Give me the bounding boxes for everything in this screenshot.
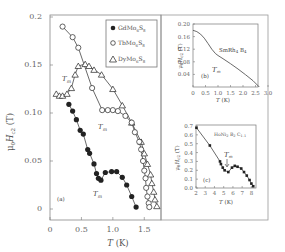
data-point-tbmo6s8 [144, 185, 149, 190]
data-point-tbmo6s8 [105, 108, 110, 113]
panel-a-ylabel: μ0Hc2 (T) [5, 113, 16, 151]
y-tick-label: 0.2 [29, 12, 42, 21]
data-point-tbmo6s8 [147, 204, 152, 209]
data-point-dymo6s8 [152, 197, 158, 202]
y-tick-label: 0.2 [184, 167, 193, 173]
data-point-honi2b2c11 [236, 165, 239, 168]
x-tick-label: 1.0 [106, 225, 119, 234]
data-point-tbmo6s8 [90, 85, 95, 90]
data-point-gdmo6s8 [103, 170, 108, 175]
x-tick-label: 1.5 [138, 225, 151, 234]
panel-b: 00.51.01.52.02.53.00.040.080.120.160.20 … [177, 21, 273, 103]
data-point-gdmo6s8 [129, 194, 134, 199]
panel-c: 23456780.00.10.20.30.40.50.60.7 μ0Hc2 (T… [174, 123, 256, 205]
x-tick-label: 4 [213, 190, 217, 196]
y-tick-label: 0.20 [178, 21, 191, 27]
data-point-honi2b2c11 [252, 185, 255, 188]
data-point-gdmo6s8 [74, 117, 79, 122]
data-point-honi2b2c11 [248, 179, 251, 182]
x-tick-label: 2.5 [251, 90, 260, 96]
data-point-tbmo6s8 [115, 108, 120, 113]
data-point-tbmo6s8 [137, 139, 142, 144]
x-tick-label: 0 [191, 90, 195, 96]
data-point-gdmo6s8 [98, 178, 103, 183]
x-tick-label: 3 [203, 190, 207, 196]
panel-a-label: (a) [57, 196, 65, 202]
data-point-honi2b2c11 [227, 171, 230, 174]
data-point-dymo6s8 [147, 172, 153, 177]
panel-a: 00.51.01.500.050.100.150.2 μ0Hc2 (T) T (… [5, 12, 161, 248]
data-point-dymo6s8 [110, 86, 116, 91]
data-point-dymo6s8 [75, 63, 81, 68]
panel-b-label: (b) [201, 73, 209, 79]
data-point-tbmo6s8 [143, 176, 148, 181]
data-point-tbmo6s8 [76, 45, 81, 50]
data-point-dymo6s8 [154, 203, 160, 208]
data-point-honi2b2c11 [231, 166, 234, 169]
panel-c-tm-annotation: Tm [224, 151, 233, 159]
data-point-tbmo6s8 [70, 35, 75, 40]
data-point-tbmo6s8 [132, 130, 137, 135]
panel-c-ylabel: μ0Hc2 (T) [174, 145, 181, 170]
panel-a-tm-annotation-tb: Tm [98, 123, 107, 132]
y-tick-label: 0.3 [184, 158, 193, 164]
y-tick-label: 0.6 [184, 132, 193, 138]
x-tick-label: 2 [194, 190, 198, 196]
data-point-honi2b2c11 [195, 126, 198, 129]
data-point-honi2b2c11 [240, 167, 243, 170]
panel-c-tm-arrow [225, 159, 229, 167]
x-tick-label: 0 [47, 225, 52, 234]
panel-a-tm-annotation-gd: Tm [93, 190, 102, 199]
y-tick-label: 0.04 [178, 71, 191, 77]
panel-c-xlabel: T (K) [219, 199, 233, 205]
panel-a-xlabel: T (K) [107, 238, 128, 248]
data-point-dymo6s8 [151, 189, 157, 194]
x-tick-label: 1.5 [226, 90, 235, 96]
data-point-gdmo6s8 [120, 175, 125, 180]
panel-a-tm-annotation-dy: Tm [62, 75, 71, 84]
y-tick-label: 0.1 [184, 176, 193, 182]
y-tick-label: 0.4 [184, 150, 193, 156]
x-tick-label: 3.0 [264, 90, 273, 96]
data-point-honi2b2c11 [223, 169, 226, 172]
data-point-gdmo6s8 [124, 182, 129, 187]
legend-marker-gdmo6s8 [111, 26, 116, 31]
data-point-dymo6s8 [64, 91, 70, 96]
panel-c-title: HoNi2 B2 C1.1 [214, 132, 246, 138]
data-point-honi2b2c11 [219, 160, 222, 163]
y-tick-label: 0 [37, 204, 42, 213]
x-tick-label: 7 [240, 190, 244, 196]
y-tick-label: 0.16 [178, 34, 191, 40]
data-point-honi2b2c11 [245, 174, 248, 177]
data-point-honi2b2c11 [243, 171, 246, 174]
panel-b-tm-annotation: Tm [212, 66, 221, 74]
x-tick-label: 1.0 [214, 90, 223, 96]
y-tick-label: 0.0 [184, 185, 193, 191]
panel-c-label: (c) [203, 177, 210, 183]
data-point-tbmo6s8 [100, 108, 105, 113]
data-point-dymo6s8 [98, 72, 104, 77]
x-tick-label: 0.5 [201, 90, 210, 96]
data-point-gdmo6s8 [109, 169, 114, 174]
data-point-honi2b2c11 [233, 165, 236, 168]
data-point-tbmo6s8 [123, 113, 128, 118]
y-tick-label: 0.7 [184, 123, 193, 129]
data-point-honi2b2c11 [250, 182, 253, 185]
y-tick-label: 0.10 [24, 108, 42, 117]
panel-b-xlabel: T (K) [216, 97, 230, 103]
data-point-dymo6s8 [68, 85, 74, 90]
data-point-gdmo6s8 [114, 169, 119, 174]
data-point-tbmo6s8 [145, 194, 150, 199]
data-point-tbmo6s8 [142, 168, 147, 173]
data-point-gdmo6s8 [87, 151, 92, 156]
data-point-dymo6s8 [119, 102, 125, 107]
y-tick-label: 0.05 [24, 156, 42, 165]
data-point-tbmo6s8 [60, 24, 65, 29]
y-tick-label: 0.5 [184, 141, 193, 147]
data-point-gdmo6s8 [91, 161, 96, 166]
data-point-tbmo6s8 [139, 147, 144, 152]
data-point-gdmo6s8 [66, 102, 71, 107]
data-point-gdmo6s8 [81, 132, 86, 137]
data-point-gdmo6s8 [70, 108, 75, 113]
data-point-dymo6s8 [149, 180, 155, 185]
